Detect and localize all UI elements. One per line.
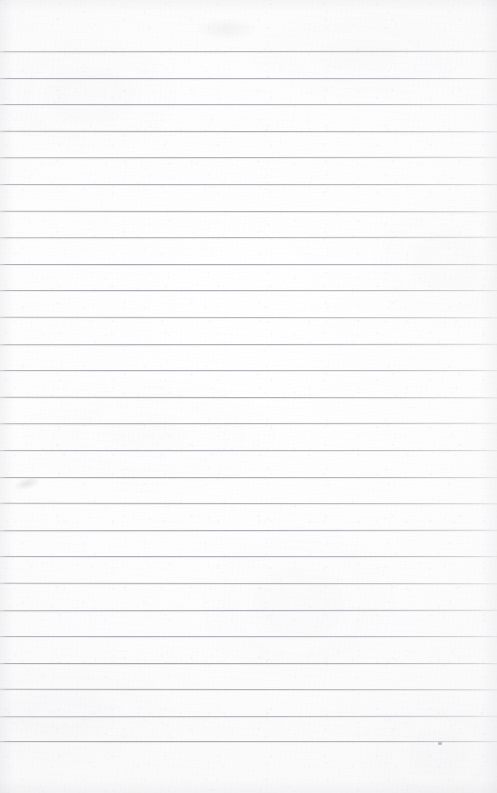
page-content-text[interactable] [0, 0, 497, 793]
scanned-page [0, 0, 497, 793]
